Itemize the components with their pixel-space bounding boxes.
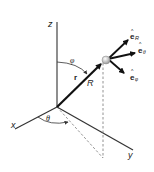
unit-vector-phi-label: ^ e φ	[130, 68, 138, 82]
svg-text:φ: φ	[135, 76, 138, 82]
x-axis-label: x	[10, 120, 16, 130]
x-axis	[15, 107, 57, 129]
z-axis-label: z	[47, 19, 53, 29]
particle	[102, 56, 110, 64]
y-axis	[57, 107, 133, 150]
spherical-coordinates-diagram: z x y φ θ r R ^ e R ^ e θ ^ e φ	[0, 0, 154, 172]
svg-text:θ: θ	[143, 49, 146, 55]
unit-vector-phi	[108, 59, 124, 73]
phi-label: φ	[70, 56, 75, 65]
y-axis-label: y	[127, 150, 133, 160]
vector-r-label: r	[74, 73, 77, 82]
unit-vector-r-label: ^ e R	[130, 28, 139, 41]
projection-ground	[57, 107, 103, 158]
position-vector	[57, 64, 101, 107]
unit-vector-theta-label: ^ e θ	[138, 41, 146, 55]
magnitude-R-label: R	[87, 78, 94, 88]
theta-label: θ	[46, 114, 50, 123]
theta-arc	[38, 117, 68, 123]
